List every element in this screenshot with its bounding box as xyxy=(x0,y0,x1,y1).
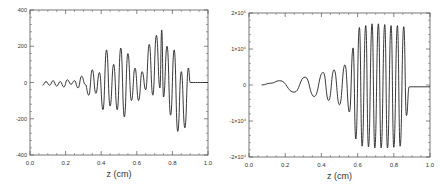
y-tick-label: 2×10⁴ xyxy=(231,10,246,16)
x-tick-label: 0.0 xyxy=(26,160,35,166)
x-tick-label: 0.4 xyxy=(317,162,326,168)
x-tick-label: 0.0 xyxy=(245,162,254,168)
data-series-line xyxy=(262,24,430,148)
chart-right: 0.00.20.40.60.81.0-2×10⁴-1×10⁴01×10⁴2×10… xyxy=(222,0,445,190)
y-tick-label: -1×10⁴ xyxy=(229,118,246,124)
x-axis-label: z (cm) xyxy=(107,169,132,179)
x-tick-label: 0.4 xyxy=(97,160,106,166)
y-tick-label: -2×10⁴ xyxy=(229,154,246,160)
x-tick-label: 0.2 xyxy=(281,162,290,168)
y-tick-label: 0 xyxy=(24,80,27,86)
x-tick-label: 0.8 xyxy=(390,162,399,168)
chart-left-svg: 0.00.20.40.60.81.0-400-2000200400z (cm) xyxy=(0,0,222,190)
y-tick-label: -400 xyxy=(16,152,27,158)
chart-left: 0.00.20.40.60.81.0-400-2000200400z (cm) xyxy=(0,0,222,190)
x-tick-label: 1.0 xyxy=(426,162,435,168)
x-axis-label: z (cm) xyxy=(327,171,352,181)
data-series-line xyxy=(42,30,208,132)
y-tick-label: 400 xyxy=(18,7,27,13)
chart-right-svg: 0.00.20.40.60.81.0-2×10⁴-1×10⁴01×10⁴2×10… xyxy=(222,0,445,190)
y-tick-label: 200 xyxy=(18,43,27,49)
y-tick-label: -200 xyxy=(16,116,27,122)
x-tick-label: 0.6 xyxy=(133,160,142,166)
x-tick-label: 0.6 xyxy=(353,162,362,168)
y-tick-label: 1×10⁴ xyxy=(231,46,246,52)
x-tick-label: 0.2 xyxy=(61,160,70,166)
y-tick-label: 0 xyxy=(243,82,246,88)
x-tick-label: 1.0 xyxy=(204,160,213,166)
x-tick-label: 0.8 xyxy=(168,160,177,166)
